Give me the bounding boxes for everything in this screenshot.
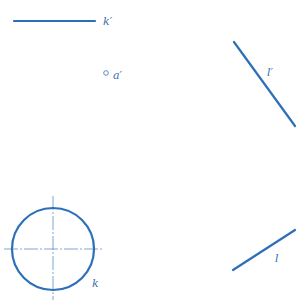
label-a-prime: a′	[113, 69, 123, 82]
label-l: l	[275, 252, 279, 265]
label-k-prime: k′	[103, 15, 113, 28]
projection-diagram: k′ a′ l′ k l	[0, 0, 302, 306]
label-l-prime: l′	[267, 66, 274, 79]
point-a-prime	[104, 71, 109, 76]
label-k: k	[92, 277, 99, 290]
line-l-prime	[234, 42, 295, 126]
line-l	[233, 230, 295, 270]
